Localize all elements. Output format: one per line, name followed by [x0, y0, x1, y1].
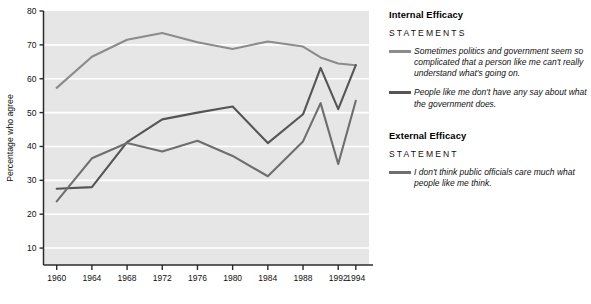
legend-heading: Internal Efficacy [389, 10, 589, 20]
x-tick-label: 1972 [153, 273, 172, 283]
x-tick-label: 1992 [329, 273, 348, 283]
legend-group-spacer [389, 118, 589, 131]
line-chart: 1020304050607080196019641968197219761980… [0, 0, 380, 304]
x-tick-label: 1960 [47, 273, 66, 283]
x-tick-label: 1976 [188, 273, 207, 283]
chart-legend: Internal EfficacySTATEMENTSSometimes pol… [389, 10, 589, 197]
x-tick-label: 1994 [346, 273, 365, 283]
plot-background [44, 11, 370, 265]
y-tick-label: 50 [27, 108, 37, 118]
x-tick-label: 1964 [82, 273, 101, 283]
legend-entry-label: People like me don't have any say about … [414, 87, 589, 109]
legend-entry-label: Sometimes politics and government seem s… [414, 46, 589, 80]
legend-line-swatch-icon [389, 91, 411, 94]
x-tick-label: 1980 [223, 273, 242, 283]
x-tick-label: 1968 [118, 273, 137, 283]
y-tick-label: 60 [27, 74, 37, 84]
legend-group-2: External EfficacySTATEMENTI don't think … [389, 131, 589, 189]
legend-subheading: STATEMENTS [389, 29, 589, 38]
legend-entry[interactable]: Sometimes politics and government seem s… [389, 46, 589, 80]
legend-entry-label: I don't think public officials care much… [414, 167, 589, 189]
figure: 1020304050607080196019641968197219761980… [0, 0, 591, 304]
y-tick-label: 10 [27, 243, 37, 253]
legend-line-swatch-icon [389, 50, 411, 53]
legend-group-1: Internal EfficacySTATEMENTSSometimes pol… [389, 10, 589, 110]
y-tick-label: 70 [27, 40, 37, 50]
y-tick-label: 40 [27, 141, 37, 151]
legend-entry[interactable]: People like me don't have any say about … [389, 87, 589, 109]
y-tick-label: 20 [27, 209, 37, 219]
x-tick-label: 1988 [294, 273, 313, 283]
y-tick-label: 30 [27, 175, 37, 185]
legend-heading: External Efficacy [389, 131, 589, 141]
legend-entry[interactable]: I don't think public officials care much… [389, 167, 589, 189]
x-tick-label: 1984 [258, 273, 277, 283]
legend-line-swatch-icon [389, 171, 411, 174]
y-axis-title: Percentage who agree [5, 94, 15, 182]
chart-canvas: 1020304050607080196019641968197219761980… [0, 0, 380, 304]
legend-subheading: STATEMENT [389, 150, 589, 159]
y-tick-label: 80 [27, 6, 37, 16]
